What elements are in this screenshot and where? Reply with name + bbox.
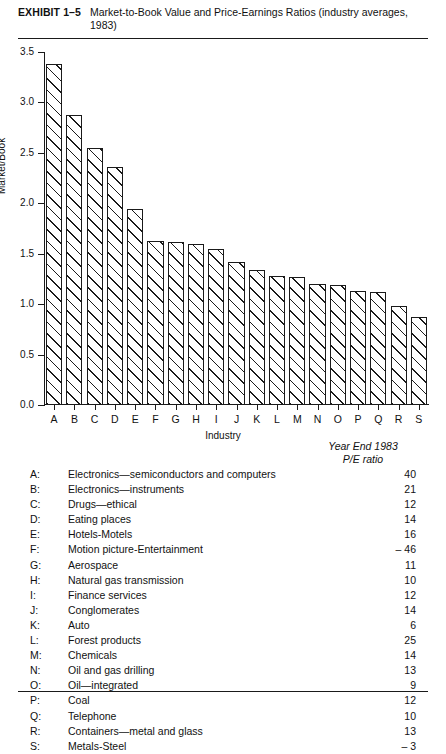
legend-row-pe-value: – 3 bbox=[330, 740, 416, 752]
legend-row-name: Aerospace bbox=[68, 559, 118, 571]
y-tick-label: 1.5 bbox=[6, 248, 34, 259]
x-tick bbox=[95, 405, 96, 410]
x-tick bbox=[419, 405, 420, 410]
x-tick bbox=[237, 405, 238, 410]
legend-row-name: Finance services bbox=[68, 589, 147, 601]
x-tick bbox=[277, 405, 278, 410]
x-tick bbox=[297, 405, 298, 410]
x-tick-label: G bbox=[166, 413, 186, 425]
y-tick-label: 3.5 bbox=[6, 46, 34, 57]
legend-row: B:Electronics—instruments21 bbox=[0, 483, 446, 498]
x-tick-label: F bbox=[145, 413, 165, 425]
y-tick bbox=[38, 52, 45, 53]
legend-row-pe-value: 14 bbox=[330, 513, 416, 525]
legend-row-name: Conglomerates bbox=[68, 604, 139, 616]
bar bbox=[188, 244, 204, 405]
legend-row-key: L: bbox=[30, 634, 56, 646]
legend-row-key: F: bbox=[30, 543, 56, 555]
legend-row: O:Oil—integrated9 bbox=[0, 679, 446, 694]
legend-row-key: H: bbox=[30, 574, 56, 586]
x-tick bbox=[196, 405, 197, 410]
legend-row: Q:Telephone10 bbox=[0, 710, 446, 725]
y-tick bbox=[38, 355, 45, 356]
bar bbox=[168, 242, 184, 405]
x-tick bbox=[176, 405, 177, 410]
legend-row-pe-value: 10 bbox=[330, 710, 416, 722]
legend-row-pe-value: 25 bbox=[330, 634, 416, 646]
legend-row-key: C: bbox=[30, 498, 56, 510]
bar bbox=[87, 148, 103, 405]
legend-row-name: Metals-Steel bbox=[68, 740, 126, 752]
legend-row: C:Drugs—ethical12 bbox=[0, 498, 446, 513]
legend-row-pe-value: 21 bbox=[330, 483, 416, 495]
legend-row-key: P: bbox=[30, 694, 56, 706]
legend-row-pe-value: 40 bbox=[330, 468, 416, 480]
bar bbox=[269, 276, 285, 405]
legend-row-key: N: bbox=[30, 664, 56, 676]
y-tick-label: 0.5 bbox=[6, 349, 34, 360]
exhibit-header: EXHIBIT 1–5 Market-to-Book Value and Pri… bbox=[0, 0, 446, 31]
legend-row-key: D: bbox=[30, 513, 56, 525]
legend-row: D:Eating places14 bbox=[0, 513, 446, 528]
legend-row-key: I: bbox=[30, 589, 56, 601]
legend-row: K:Auto6 bbox=[0, 619, 446, 634]
x-tick bbox=[74, 405, 75, 410]
legend-row: L:Forest products25 bbox=[0, 634, 446, 649]
x-tick-label: N bbox=[308, 413, 328, 425]
x-tick bbox=[155, 405, 156, 410]
legend-row-key: A: bbox=[30, 468, 56, 480]
x-tick-label: P bbox=[348, 413, 368, 425]
legend-row-name: Drugs—ethical bbox=[68, 498, 137, 510]
legend-row-name: Oil and gas drilling bbox=[68, 664, 154, 676]
legend-row-pe-value: 11 bbox=[330, 559, 416, 571]
legend-row-pe-value: 12 bbox=[330, 694, 416, 706]
legend-row-name: Motion picture-Entertainment bbox=[68, 543, 203, 555]
legend-row-name: Hotels-Motels bbox=[68, 528, 132, 540]
bar-chart: Market/Book 0.00.51.01.52.02.53.03.5 ABC… bbox=[0, 44, 446, 442]
x-tick bbox=[54, 405, 55, 410]
x-tick-label: H bbox=[186, 413, 206, 425]
legend-row: G:Aerospace11 bbox=[0, 559, 446, 574]
legend-row-key: K: bbox=[30, 619, 56, 631]
y-tick bbox=[38, 254, 45, 255]
x-tick-label: B bbox=[64, 413, 84, 425]
legend-row: M:Chemicals14 bbox=[0, 649, 446, 664]
x-tick-label: R bbox=[389, 413, 409, 425]
legend-row: J:Conglomerates14 bbox=[0, 604, 446, 619]
bar bbox=[391, 306, 407, 405]
footer-divider bbox=[18, 691, 428, 692]
legend-row-pe-value: 12 bbox=[330, 498, 416, 510]
x-tick bbox=[115, 405, 116, 410]
x-tick-label: D bbox=[105, 413, 125, 425]
y-tick-label: 2.0 bbox=[6, 197, 34, 208]
bar bbox=[228, 262, 244, 405]
legend-row-name: Eating places bbox=[68, 513, 131, 525]
legend-row-pe-value: 12 bbox=[330, 589, 416, 601]
legend-row: P:Coal12 bbox=[0, 694, 446, 709]
legend-row-key: J: bbox=[30, 604, 56, 616]
legend-row-name: Telephone bbox=[68, 710, 116, 722]
x-tick-label: M bbox=[287, 413, 307, 425]
legend-row-key: Q: bbox=[30, 710, 56, 722]
legend-row-pe-value: 9 bbox=[330, 679, 416, 691]
x-tick bbox=[135, 405, 136, 410]
legend-row-pe-value: 6 bbox=[330, 619, 416, 631]
x-tick-label: O bbox=[328, 413, 348, 425]
legend-row: I:Finance services12 bbox=[0, 589, 446, 604]
y-tick bbox=[38, 405, 45, 406]
legend-row: A:Electronics—semiconductors and compute… bbox=[0, 468, 446, 483]
legend-row-group: A:Electronics—semiconductors and compute… bbox=[0, 468, 446, 754]
x-tick bbox=[338, 405, 339, 410]
legend-row-name: Oil—integrated bbox=[68, 679, 138, 691]
bar bbox=[208, 249, 224, 405]
exhibit-tag: EXHIBIT 1–5 bbox=[18, 6, 81, 18]
header-divider bbox=[18, 38, 428, 39]
x-tick-label: E bbox=[125, 413, 145, 425]
legend-row-key: E: bbox=[30, 528, 56, 540]
x-tick bbox=[216, 405, 217, 410]
x-tick bbox=[358, 405, 359, 410]
bar bbox=[66, 115, 82, 405]
x-tick-label: J bbox=[227, 413, 247, 425]
legend-row-key: M: bbox=[30, 649, 56, 661]
legend-row-key: G: bbox=[30, 559, 56, 571]
